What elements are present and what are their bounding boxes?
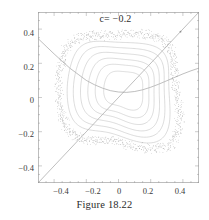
x-tick-label-4: 0.4 [168,186,192,196]
x-tick-label-3: 0.2 [136,186,160,196]
y-tick-label-3: −0.2 [6,129,34,139]
x-tick-label-2: 0 [107,186,131,196]
plot-area [38,12,199,183]
figure-caption: Figure 18.22 [0,199,209,210]
diagonal-line [38,12,199,183]
invariant-curve [95,64,149,118]
x-tick-label-0: −0.4 [49,186,73,196]
orbit-layer [38,12,199,183]
invariant-curve [104,71,143,110]
parabola-curve [38,39,199,93]
y-tick-label-0: 0.4 [8,28,34,38]
y-tick-label-2: 0 [8,95,34,105]
hyperbolic-fixed-point [180,31,182,33]
y-tick-label-1: 0.2 [8,62,34,72]
figure-container: c= −0.2 0.4 0.2 0 −0.2 −0.4 −0.4 −0.2 0 … [0,0,209,220]
y-tick-label-4: −0.4 [6,163,34,173]
x-tick-label-1: −0.2 [81,186,105,196]
phase-portrait-svg [38,12,199,183]
